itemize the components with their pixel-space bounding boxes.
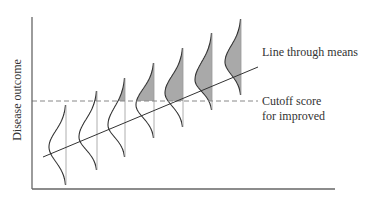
diagram-figure: Disease outcome Line through means Cutof… xyxy=(0,0,370,200)
distribution-curve xyxy=(49,105,65,185)
cutoff-label-line2: for improved xyxy=(262,109,325,123)
distribution-curve xyxy=(108,78,124,157)
mean-line-label: Line through means xyxy=(262,45,358,59)
shaded-area xyxy=(165,48,183,101)
y-axis-label: Disease outcome xyxy=(10,59,24,141)
shaded-areas-above-cutoff xyxy=(95,19,241,101)
cutoff-label-line1: Cutoff score xyxy=(262,94,321,108)
distribution-curves xyxy=(49,19,241,185)
distribution-curve xyxy=(79,91,96,170)
